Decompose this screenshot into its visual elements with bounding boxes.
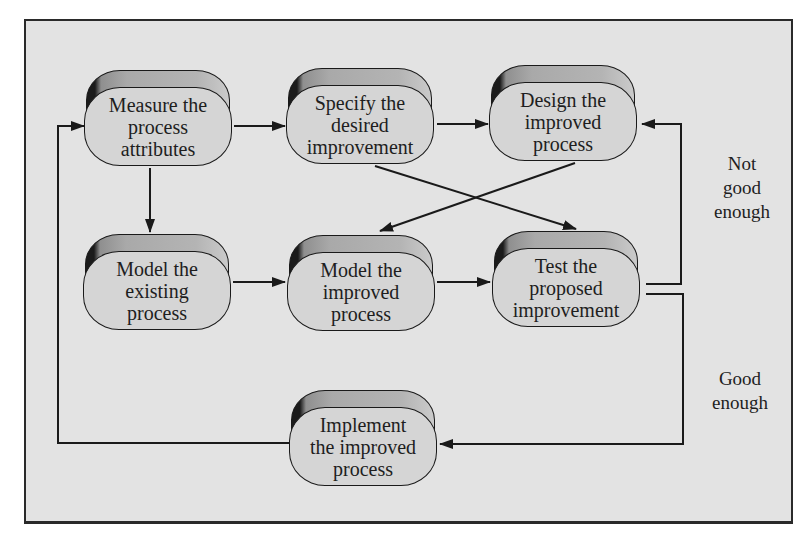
node-face: Specify the desired improvement: [286, 85, 434, 164]
node-label: Test the proposed improvement: [513, 255, 620, 321]
node-face: Measure the process attributes: [84, 87, 232, 166]
node-test-proposed-improvement: Test the proposed improvement: [492, 231, 642, 327]
node-label: Model the improved process: [320, 259, 402, 325]
node-specify-desired-improvement: Specify the desired improvement: [286, 68, 436, 164]
node-label: Implement the improved process: [310, 414, 416, 480]
node-label: Model the existing process: [116, 258, 198, 324]
node-design-improved-process: Design the improved process: [489, 65, 639, 161]
node-face: Implement the improved process: [289, 407, 437, 486]
node-label: Measure the process attributes: [109, 94, 207, 160]
node-measure-process-attributes: Measure the process attributes: [84, 70, 234, 166]
node-label: Specify the desired improvement: [307, 92, 414, 158]
node-model-existing-process: Model the existing process: [83, 234, 233, 330]
edge-label-not-good-enough: Not good enough: [702, 152, 782, 224]
edge-label-good-enough: Good enough: [698, 367, 782, 415]
node-face: Model the existing process: [83, 251, 231, 330]
node-face: Model the improved process: [287, 252, 435, 331]
node-implement-improved-process: Implement the improved process: [289, 390, 439, 486]
node-label: Design the improved process: [520, 89, 606, 155]
node-model-improved-process: Model the improved process: [287, 235, 437, 331]
node-face: Test the proposed improvement: [492, 248, 640, 327]
node-face: Design the improved process: [489, 82, 637, 161]
